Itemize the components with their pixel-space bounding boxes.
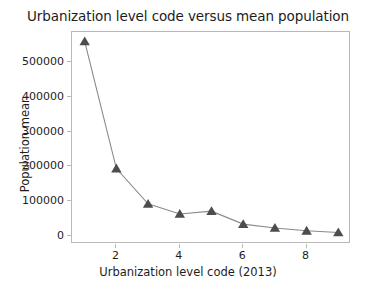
plot-area: [71, 31, 350, 243]
y-axis-label-wrap: Population mean: [0, 0, 1, 295]
x-axis-tick-label: 8: [291, 249, 321, 262]
x-axis-label: Urbanization level code (2013): [0, 265, 376, 279]
data-point-marker: [206, 206, 216, 215]
data-markers: [79, 36, 343, 236]
y-axis-tick-mark: [67, 165, 71, 166]
y-axis-tick-mark: [67, 96, 71, 97]
data-line: [85, 41, 339, 232]
y-axis-tick-mark: [67, 61, 71, 62]
data-point-marker: [79, 36, 89, 45]
data-point-marker: [238, 219, 248, 228]
y-axis-tick-mark: [67, 235, 71, 236]
x-axis-tick-label: 2: [100, 249, 130, 262]
y-axis-tick-mark: [67, 200, 71, 201]
x-axis-tick-label: 4: [164, 249, 194, 262]
x-axis-tick-mark: [306, 244, 307, 248]
x-axis-tick-mark: [242, 244, 243, 248]
x-axis-tick-mark: [115, 244, 116, 248]
chart-figure: Urbanization level code versus mean popu…: [0, 0, 376, 295]
x-axis-tick-label: 6: [227, 249, 257, 262]
y-axis-tick-mark: [67, 131, 71, 132]
data-point-marker: [111, 164, 121, 173]
y-axis-tick-label: 0: [57, 229, 64, 242]
x-axis-tick-mark: [179, 244, 180, 248]
y-axis-tick-labels: 0100000200000300000400000500000: [0, 0, 64, 295]
y-axis-label: Population mean: [18, 64, 32, 224]
plot-svg: [72, 32, 351, 244]
